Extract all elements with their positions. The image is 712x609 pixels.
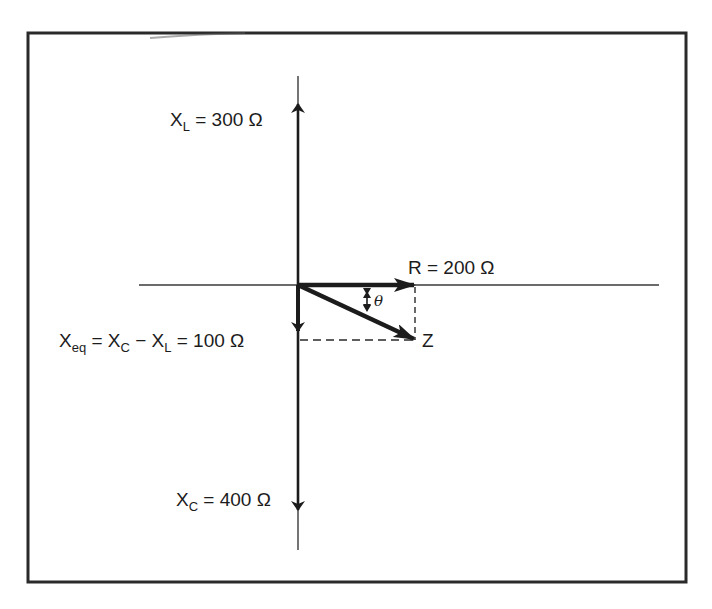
xc-var: X <box>176 489 189 510</box>
xeq-label: Xeq = XC − XL = 100 Ω <box>59 331 244 350</box>
xl-label: XL = 300 Ω <box>170 110 263 129</box>
xl-var: X <box>170 109 183 130</box>
xc-label: XC = 400 Ω <box>176 490 271 509</box>
xeq-sub-c: C <box>120 340 129 355</box>
impedance-diagram: XL = 300 Ω R = 200 Ω Xeq = XC − XL = 100… <box>0 0 712 609</box>
xeq-var: X <box>59 330 72 351</box>
xc-sub: C <box>189 499 198 514</box>
theta-label: θ <box>374 292 383 310</box>
diagram-canvas <box>0 0 712 609</box>
xeq-sub: eq <box>72 340 86 355</box>
xeq-value: = 100 Ω <box>171 330 244 351</box>
r-label: R = 200 Ω <box>408 258 495 277</box>
z-label: Z <box>422 331 434 350</box>
theta-arrowhead-up-icon <box>363 291 371 298</box>
xl-sub: L <box>183 119 190 134</box>
theta-symbol: θ <box>374 292 383 310</box>
diagram-frame <box>28 33 686 582</box>
z-vector <box>298 285 414 339</box>
r-value: R = 200 Ω <box>408 257 495 278</box>
theta-arrowhead-down-icon <box>363 305 371 312</box>
xc-value: = 400 Ω <box>198 489 271 510</box>
xl-value: = 300 Ω <box>190 109 263 130</box>
xeq-minus-xl: − X <box>130 330 164 351</box>
z-text: Z <box>422 330 434 351</box>
xeq-eq-xc: = X <box>86 330 120 351</box>
